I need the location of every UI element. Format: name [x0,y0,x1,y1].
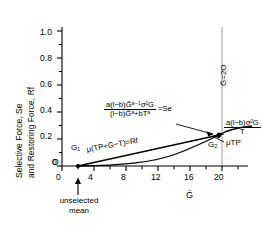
unselected-mean-arrowhead [75,178,81,185]
unselected-mean-caption: unselected mean [46,196,112,216]
point-label-g2: G₂ [208,140,217,149]
vertical-line-label: Ḡ=2O [219,64,228,86]
right-equation: a(l−b)σ²G T [224,119,261,136]
se-equation: a(l−b)Ḡᵃ⁻¹σ²G (l−b)Ḡᵃ+bTᵃ =Se [104,101,172,118]
origin-label: O [52,157,59,167]
unselected-mean-caption-line1: unselected [46,196,112,206]
right-equation-denominator: T [224,127,261,136]
point-g1-marker [76,164,80,168]
chart-figure: Selective Force, Se and Restoring Force,… [0,0,276,232]
se-equation-denominator: (l−b)Ḡᵃ+bTᵃ [104,109,156,118]
unselected-mean-caption-line2: mean [46,206,112,216]
point-label-g1: G₁ [71,143,80,152]
se-equation-numerator: a(l−b)Ḡᵃ⁻¹σ²G [104,101,156,109]
mu-tp-label: μTP [226,139,241,147]
right-equation-numerator: a(l−b)σ²G [224,119,261,127]
se-equation-equals: =Se [158,105,172,113]
